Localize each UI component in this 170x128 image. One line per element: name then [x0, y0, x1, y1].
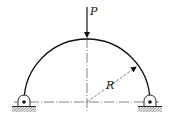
left-pin-support [12, 95, 36, 112]
radius-label: R [106, 80, 114, 91]
load-label: P [90, 6, 97, 17]
arch-diagram [0, 0, 170, 128]
right-pin-support [138, 95, 162, 112]
